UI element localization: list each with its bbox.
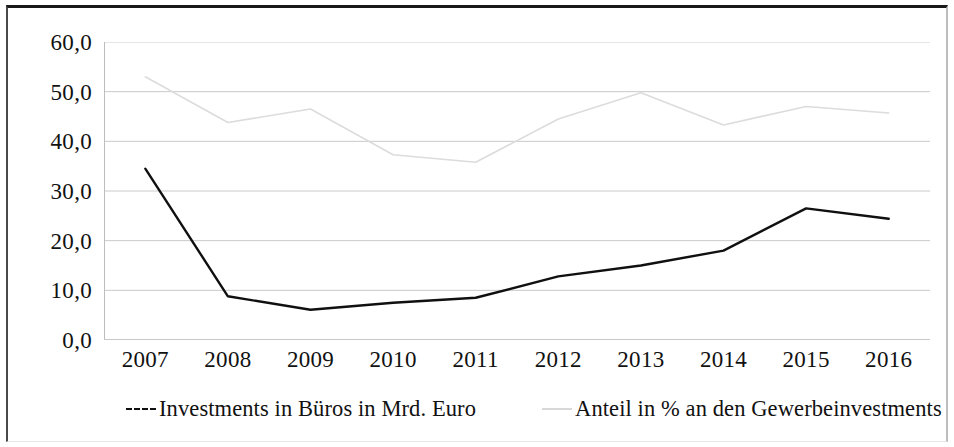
y-axis-tick-label: 0,0	[62, 329, 92, 352]
x-axis-tick-label: 2010	[369, 348, 416, 371]
legend-item-investments: Investments in Büros in Mrd. Euro	[126, 398, 476, 421]
x-axis-tick-label: 2015	[782, 348, 829, 371]
plot-area	[104, 42, 930, 340]
x-axis-tick-label: 2008	[204, 348, 251, 371]
y-axis: 60,050,040,030,020,010,00,0	[0, 0, 104, 382]
y-axis-tick-label: 20,0	[51, 229, 92, 252]
x-axis-tick-label: 2009	[287, 348, 334, 371]
x-axis-tick-label: 2012	[535, 348, 582, 371]
y-axis-tick-label: 10,0	[51, 279, 92, 302]
x-axis-tick-label: 2007	[122, 348, 169, 371]
legend-label-anteil: Anteil in % an den Gewerbeinvestments	[575, 398, 942, 421]
x-axis: 2007200820092010201120122013201420152016	[104, 348, 930, 384]
y-axis-tick-label: 60,0	[51, 31, 92, 54]
x-axis-tick-label: 2013	[617, 348, 664, 371]
chart-legend: Investments in Büros in Mrd. Euro Anteil…	[104, 392, 934, 426]
line-chart-plot	[104, 42, 930, 340]
x-axis-tick-label: 2014	[700, 348, 747, 371]
x-axis-tick-label: 2011	[453, 348, 499, 371]
series-line-1	[145, 169, 888, 310]
y-axis-tick-label: 30,0	[51, 180, 92, 203]
legend-swatch-grey-line-icon	[542, 408, 572, 410]
legend-label-investments: Investments in Büros in Mrd. Euro	[159, 398, 476, 421]
legend-item-anteil: Anteil in % an den Gewerbeinvestments	[542, 398, 942, 421]
chart-figure: 60,050,040,030,020,010,00,0 200720082009…	[0, 0, 954, 447]
data-series-lines	[145, 77, 888, 310]
series-line-2	[145, 77, 888, 162]
y-axis-tick-label: 50,0	[51, 80, 92, 103]
legend-swatch-dashed-line-icon	[126, 408, 156, 410]
x-axis-tick-label: 2016	[865, 348, 912, 371]
y-axis-tick-label: 40,0	[51, 130, 92, 153]
